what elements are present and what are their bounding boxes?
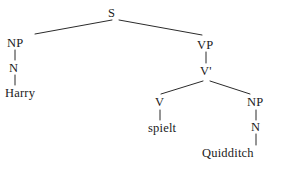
terminal-spielt: spielt (148, 122, 176, 135)
branch-s-to-vp (119, 20, 202, 35)
node-v: V (155, 96, 164, 109)
node-n-object: N (251, 121, 260, 134)
syntax-tree-figure: S NP N Harry VP V' V spielt NP N Quiddit… (0, 0, 284, 175)
branch-vbar-to-v (161, 81, 203, 94)
node-s: S (108, 7, 115, 20)
node-vp: VP (197, 39, 213, 52)
branch-s-to-np (35, 20, 112, 34)
node-np-subject: NP (7, 37, 23, 50)
terminal-quidditch: Quidditch (202, 147, 254, 160)
branch-vbar-to-np (210, 81, 250, 94)
terminal-harry: Harry (5, 87, 35, 100)
node-np-object: NP (247, 96, 263, 109)
node-n-subject: N (9, 62, 18, 75)
node-vbar: V' (200, 65, 212, 78)
